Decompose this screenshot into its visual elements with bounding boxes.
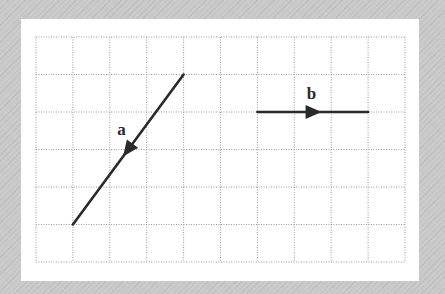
grid [36,37,405,262]
vector-label-b: b [307,84,316,103]
arrowhead-icon [306,105,322,119]
arrowhead-icon [123,140,138,157]
vector-b: b [257,84,368,119]
vector-label-a: a [117,120,126,139]
vector-diagram: a b [0,0,445,294]
